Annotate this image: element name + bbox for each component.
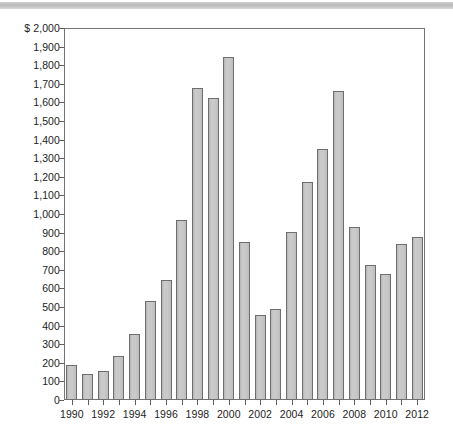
x-axis-tick-mark bbox=[229, 400, 230, 405]
x-axis-tick-mark bbox=[166, 400, 167, 405]
y-axis-tick-mark bbox=[59, 121, 64, 122]
bar-chart: $ 2,0001,9001,8001,7001,6001,5001,4001,3… bbox=[0, 0, 453, 443]
y-axis-tick-mark bbox=[59, 140, 64, 141]
x-axis-tick-label: 2000 bbox=[217, 408, 241, 420]
x-axis-tick-mark bbox=[401, 400, 402, 405]
y-axis-tick-mark bbox=[59, 158, 64, 159]
x-axis-tick-mark bbox=[292, 400, 293, 405]
x-axis-tick-mark bbox=[370, 400, 371, 405]
y-axis-tick-mark bbox=[59, 84, 64, 85]
y-axis-tick-mark bbox=[59, 65, 64, 66]
x-axis-tick-mark bbox=[260, 400, 261, 405]
y-axis-tick-mark bbox=[59, 47, 64, 48]
y-axis-tick-mark bbox=[59, 381, 64, 382]
x-axis-tick-mark bbox=[72, 400, 73, 405]
x-axis-tick-mark bbox=[417, 400, 418, 405]
x-axis-tick-mark bbox=[88, 400, 89, 405]
x-axis-tick-mark bbox=[213, 400, 214, 405]
x-axis-tick-label: 1996 bbox=[154, 408, 178, 420]
x-axis-tick-label: 1990 bbox=[60, 408, 84, 420]
x-axis-tick-label: 2012 bbox=[405, 408, 429, 420]
y-axis-tick-mark bbox=[59, 102, 64, 103]
x-axis-tick-mark bbox=[197, 400, 198, 405]
y-axis-tick-mark bbox=[59, 214, 64, 215]
y-axis-tick-mark bbox=[59, 251, 64, 252]
x-axis-tick-mark bbox=[135, 400, 136, 405]
x-axis-tick-mark bbox=[354, 400, 355, 405]
x-axis-tick-mark bbox=[339, 400, 340, 405]
x-axis-tick-mark bbox=[119, 400, 120, 405]
y-axis-tick-mark bbox=[59, 344, 64, 345]
x-axis-tick-mark bbox=[150, 400, 151, 405]
x-axis-tick-mark bbox=[307, 400, 308, 405]
x-axis-tick-mark bbox=[386, 400, 387, 405]
x-axis-tick-label: 2010 bbox=[374, 408, 398, 420]
y-axis-tick-mark bbox=[59, 288, 64, 289]
x-axis: 1990199219941996199820002002200420062008… bbox=[0, 0, 453, 443]
x-axis-tick-label: 2004 bbox=[280, 408, 304, 420]
x-axis-tick-mark bbox=[245, 400, 246, 405]
x-axis-tick-label: 2008 bbox=[342, 408, 366, 420]
y-axis-tick-mark bbox=[59, 28, 64, 29]
y-axis-tick-mark bbox=[59, 195, 64, 196]
x-axis-tick-mark bbox=[182, 400, 183, 405]
y-axis-tick-mark bbox=[59, 233, 64, 234]
x-axis-tick-label: 1998 bbox=[186, 408, 210, 420]
x-axis-tick-label: 1994 bbox=[123, 408, 147, 420]
x-axis-tick-mark bbox=[276, 400, 277, 405]
chart-page: $ 2,0001,9001,8001,7001,6001,5001,4001,3… bbox=[0, 0, 453, 443]
x-axis-tick-label: 2002 bbox=[248, 408, 272, 420]
x-axis-tick-mark bbox=[103, 400, 104, 405]
x-axis-tick-label: 1992 bbox=[91, 408, 115, 420]
x-axis-tick-label: 2006 bbox=[311, 408, 335, 420]
y-axis-tick-mark bbox=[59, 270, 64, 271]
y-axis-tick-mark bbox=[59, 400, 64, 401]
y-axis-tick-mark bbox=[59, 177, 64, 178]
y-axis-tick-mark bbox=[59, 326, 64, 327]
y-axis-tick-mark bbox=[59, 307, 64, 308]
y-axis-tick-mark bbox=[59, 363, 64, 364]
x-axis-tick-mark bbox=[323, 400, 324, 405]
